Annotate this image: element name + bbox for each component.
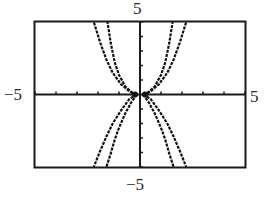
curve-lower-inner-right (143, 95, 173, 168)
curve-upper-outer-left (94, 22, 137, 95)
y-min-label: −5 (126, 176, 144, 193)
curve-upper-outer-right (143, 22, 186, 95)
curve-lower-inner-left (106, 95, 136, 168)
curve-upper-inner-right (143, 22, 172, 95)
y-max-label: 5 (133, 0, 142, 17)
origin-cluster (142, 92, 148, 98)
x-min-label: −5 (4, 86, 22, 103)
axes (35, 22, 245, 167)
plot-area (0, 0, 276, 198)
x-max-label: 5 (250, 88, 259, 105)
origin-cluster (132, 92, 138, 98)
curve-upper-inner-left (108, 22, 137, 95)
